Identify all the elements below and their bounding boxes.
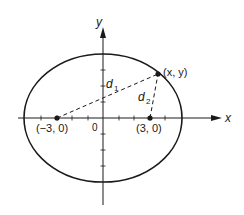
distance-line-d2 bbox=[150, 74, 158, 118]
ellipse-diagram: y x 0 (−3, 0) (3, 0) (x, y) d 1 d 2 bbox=[0, 0, 244, 215]
x-axis-label: x bbox=[224, 111, 232, 125]
d1-label: d 1 bbox=[106, 77, 119, 93]
focus-right-label: (3, 0) bbox=[136, 122, 162, 134]
d2-label: d 2 bbox=[138, 90, 151, 106]
x-axis-arrow-icon bbox=[211, 115, 222, 121]
svg-text:d: d bbox=[138, 90, 145, 104]
svg-text:d: d bbox=[106, 77, 113, 91]
focus-left-label: (−3, 0) bbox=[36, 122, 68, 134]
point-xy-label: (x, y) bbox=[163, 66, 187, 78]
x-axis bbox=[18, 115, 222, 121]
y-axis-label: y bbox=[95, 15, 103, 29]
origin-label: 0 bbox=[92, 122, 98, 133]
point-xy-dot bbox=[155, 71, 160, 76]
focus-left-dot bbox=[54, 115, 59, 120]
focus-right-dot bbox=[147, 115, 152, 120]
svg-text:1: 1 bbox=[114, 84, 119, 93]
diagram-svg: y x 0 (−3, 0) (3, 0) (x, y) d 1 d 2 bbox=[0, 0, 244, 215]
svg-text:2: 2 bbox=[146, 97, 151, 106]
